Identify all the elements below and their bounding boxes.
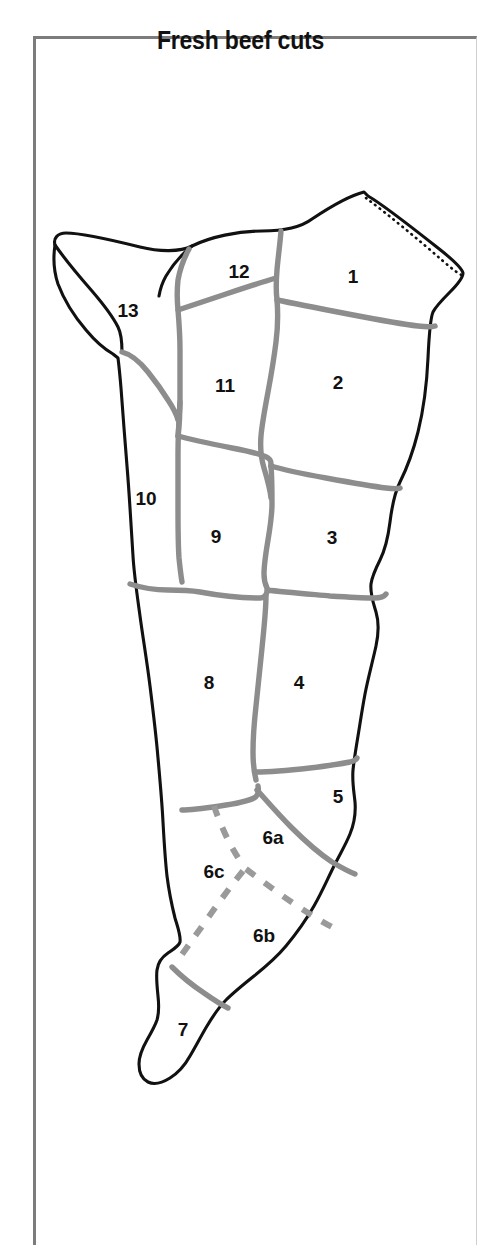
page-title: Fresh beef cuts	[19, 26, 462, 55]
page-frame	[33, 36, 477, 1245]
